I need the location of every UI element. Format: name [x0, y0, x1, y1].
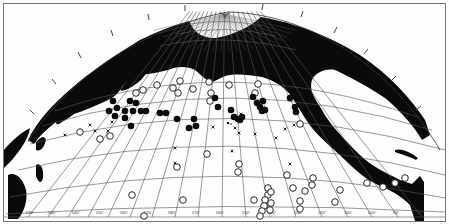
longitude-label: 80° — [417, 210, 423, 215]
open-circle-marker — [141, 213, 148, 220]
cross-marker — [284, 128, 287, 131]
filled-circle-marker — [293, 109, 300, 116]
cross-marker — [174, 147, 177, 150]
land-asia-arctic-north-america — [28, 14, 430, 221]
cross-marker — [231, 150, 234, 153]
open-circle-marker — [180, 197, 187, 204]
open-circle-marker — [77, 129, 84, 136]
open-circle-marker — [310, 175, 317, 182]
open-circle-marker — [140, 87, 147, 94]
filled-circle-marker — [133, 100, 140, 107]
filled-circle-marker — [191, 116, 198, 123]
filled-circle-marker — [122, 108, 129, 115]
longitude-label: 90° — [393, 210, 399, 215]
longitude-label: 120° — [26, 210, 35, 215]
filled-circle-marker — [143, 108, 150, 115]
filled-circle-marker — [186, 125, 193, 132]
open-circle-marker — [255, 81, 262, 88]
open-circle-marker — [332, 199, 339, 206]
open-circle-marker — [268, 200, 275, 207]
land-indochina — [8, 174, 27, 219]
longitude-label: 100° — [368, 210, 377, 215]
longitude-label: 130° — [48, 210, 57, 215]
open-circle-marker — [154, 82, 161, 89]
filled-circle-marker — [193, 123, 200, 130]
filled-circle-marker — [122, 115, 129, 122]
open-circle-marker — [206, 79, 213, 86]
land-masses — [4, 14, 430, 221]
open-circle-marker — [204, 151, 211, 158]
longitude-label: 140° — [72, 210, 81, 215]
open-circle-marker — [257, 213, 264, 220]
longitude-label: 150° — [242, 210, 251, 215]
open-circle-marker — [267, 207, 274, 214]
filled-circle-marker — [163, 110, 170, 117]
filled-circle-marker — [287, 95, 294, 102]
open-circle-marker — [262, 197, 269, 204]
filled-circle-marker — [112, 113, 119, 120]
longitude-label: 160° — [216, 210, 225, 215]
land-hawaii — [227, 122, 229, 124]
open-circle-marker — [174, 164, 181, 171]
filled-circle-marker — [114, 105, 121, 112]
cross-marker — [275, 137, 278, 140]
bottom-longitude-labels: 120°130°140°150°160°170°180°170°160°150°… — [26, 210, 424, 215]
filled-circle-marker — [212, 95, 219, 102]
open-circle-marker — [107, 133, 114, 140]
land-cuba — [395, 149, 418, 160]
longitude-label: 120° — [318, 210, 327, 215]
land-philippines-2 — [36, 164, 43, 182]
open-circle-marker — [290, 185, 297, 192]
open-circle-marker — [251, 197, 258, 204]
open-circle-marker — [190, 86, 197, 93]
open-circle-marker — [402, 175, 409, 182]
cross-marker — [293, 124, 296, 127]
open-circle-marker — [302, 188, 309, 195]
open-circle-marker — [297, 198, 304, 205]
open-circle-marker — [236, 161, 243, 168]
open-circle-marker — [97, 136, 104, 143]
open-circle-marker — [129, 192, 136, 199]
filled-circle-marker — [260, 98, 267, 105]
land-china-coast — [4, 128, 30, 168]
north-pacific-map: 120°130°140°150°160°170°180°170°160°150°… — [0, 0, 449, 224]
filled-circle-marker — [127, 98, 134, 105]
open-circle-marker — [226, 82, 233, 89]
filled-circle-marker — [128, 123, 135, 130]
filled-circle-marker — [228, 107, 235, 114]
cross-marker — [212, 126, 215, 129]
open-circle-marker — [337, 187, 344, 194]
filled-circle-marker — [130, 108, 137, 115]
longitude-label: 160° — [120, 210, 129, 215]
meridian-line — [260, 11, 422, 217]
filled-circle-marker — [110, 98, 117, 105]
filled-circle-marker — [250, 94, 257, 101]
longitude-label: 150° — [96, 210, 105, 215]
open-circle-marker — [380, 184, 387, 191]
open-circle-marker — [177, 78, 184, 85]
open-circle-marker — [268, 189, 275, 196]
cross-marker — [234, 127, 237, 130]
filled-circle-marker — [259, 108, 266, 115]
open-circle-marker — [175, 90, 182, 97]
filled-circle-marker — [215, 104, 222, 111]
cross-marker — [289, 163, 292, 166]
open-circle-marker — [392, 180, 399, 187]
filled-circle-marker — [174, 116, 181, 123]
open-circle-marker — [309, 182, 316, 189]
longitude-label: 180° — [168, 210, 177, 215]
cross-marker — [111, 121, 114, 124]
open-circle-marker — [170, 85, 177, 92]
cross-marker — [89, 124, 92, 127]
open-circle-marker — [284, 172, 291, 179]
longitude-label: 110° — [344, 210, 352, 215]
open-circle-markers — [77, 78, 409, 220]
map-figure: 120°130°140°150°160°170°180°170°160°150°… — [0, 0, 449, 224]
longitude-label: 170° — [192, 210, 201, 215]
open-circle-marker — [364, 180, 371, 187]
filled-circle-marker — [157, 110, 164, 117]
open-circle-marker — [297, 206, 304, 213]
open-circle-marker — [235, 169, 242, 176]
open-circle-marker — [297, 121, 304, 128]
filled-circle-marker — [106, 108, 113, 115]
